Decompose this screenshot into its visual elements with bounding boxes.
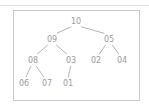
tree-node-01: 01 [63,79,73,88]
tree-nodes: 10090508030204060701 [19,17,127,88]
tree-node-07: 07 [42,79,52,88]
tree-node-02: 02 [91,56,101,65]
tree-node-08: 08 [28,56,38,65]
tree-node-06: 06 [19,79,29,88]
tree-edge-08-06 [26,66,31,77]
tree-edge-10-05 [81,27,104,34]
tree-edge-09-08 [37,45,47,54]
tree-node-05: 05 [104,35,114,44]
tree-node-04: 04 [117,56,127,65]
tree-edge-09-03 [56,45,66,54]
tree-diagram-frame: 10090508030204060701 [13,10,140,101]
tree-node-10: 10 [71,17,81,26]
tree-edge-05-02 [99,45,105,54]
tree-node-03: 03 [66,56,76,65]
binary-tree-svg: 10090508030204060701 [14,11,139,100]
page-root: 10090508030204060701 [0,0,149,109]
tree-edge-03-01 [68,66,70,77]
tree-node-09: 09 [47,35,57,44]
top-divider [0,5,149,6]
tree-edge-05-04 [112,45,118,54]
tree-edge-10-09 [57,27,71,33]
tree-edge-08-07 [36,66,44,77]
